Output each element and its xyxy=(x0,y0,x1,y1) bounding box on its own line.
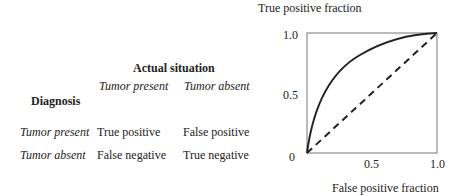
chance-line xyxy=(307,33,437,153)
roc-plot xyxy=(0,0,463,196)
